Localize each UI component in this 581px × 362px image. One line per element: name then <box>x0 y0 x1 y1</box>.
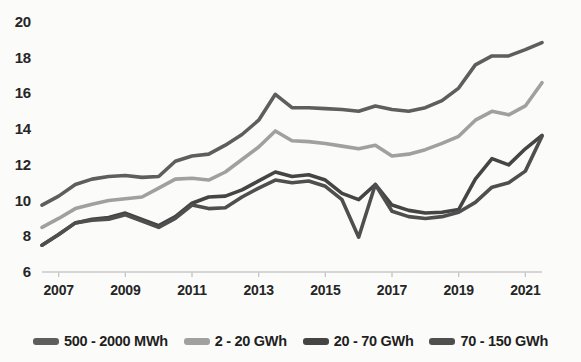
y-axis-tick-label: 14 <box>3 120 31 137</box>
line-chart: 68101214161820 2007200920112013201520172… <box>0 0 581 320</box>
x-axis-tick-label: 2021 <box>499 282 551 298</box>
legend-item[interactable]: 500 - 2000 MWh <box>33 333 168 349</box>
chart-plot-svg <box>0 0 581 320</box>
legend-item-label: 20 - 70 GWh <box>334 333 414 349</box>
legend-item[interactable]: 20 - 70 GWh <box>303 333 414 349</box>
x-axis-tick-label: 2019 <box>433 282 485 298</box>
legend-swatch-icon <box>184 338 210 345</box>
legend-item-label: 500 - 2000 MWh <box>64 333 168 349</box>
x-axis-tick-label: 2015 <box>299 282 351 298</box>
chart-page: 68101214161820 2007200920112013201520172… <box>0 0 581 362</box>
x-axis-tick-label: 2017 <box>366 282 418 298</box>
y-axis-tick-label: 6 <box>3 263 31 280</box>
series-group <box>42 43 542 246</box>
y-axis-tick-label: 12 <box>3 156 31 173</box>
y-axis-tick-label: 20 <box>3 13 31 30</box>
y-axis-tick-label: 18 <box>3 49 31 66</box>
legend-item[interactable]: 2 - 20 GWh <box>184 333 287 349</box>
x-axis-tick-label: 2013 <box>233 282 285 298</box>
legend-swatch-icon <box>33 338 59 345</box>
legend-item[interactable]: 70 - 150 GWh <box>429 333 547 349</box>
axis-group <box>42 272 542 277</box>
y-axis-tick-label: 16 <box>3 84 31 101</box>
x-axis-tick-label: 2009 <box>99 282 151 298</box>
chart-legend: 500 - 2000 MWh2 - 20 GWh20 - 70 GWh70 - … <box>0 326 581 356</box>
legend-swatch-icon <box>429 338 455 345</box>
series-line <box>42 135 542 245</box>
legend-item-label: 70 - 150 GWh <box>460 333 547 349</box>
y-axis-tick-label: 8 <box>3 227 31 244</box>
x-axis-tick-label: 2007 <box>33 282 85 298</box>
y-axis-tick-label: 10 <box>3 192 31 209</box>
legend-item-label: 2 - 20 GWh <box>215 333 287 349</box>
legend-swatch-icon <box>303 338 329 345</box>
x-axis-tick-label: 2011 <box>166 282 218 298</box>
series-line <box>42 43 542 206</box>
